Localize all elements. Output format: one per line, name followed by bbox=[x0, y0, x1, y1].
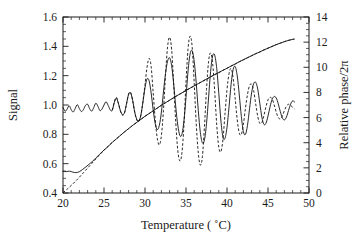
y2-tick-label: 8 bbox=[316, 86, 322, 98]
y-tick-label: 1.2 bbox=[43, 70, 58, 82]
x-axis-title: Temperature ( ˚C) bbox=[141, 218, 231, 232]
series-signal-measured bbox=[63, 50, 295, 143]
y-axis-title: Signal bbox=[6, 89, 20, 121]
y2-tick-label: 14 bbox=[316, 11, 328, 23]
series-phase-theory bbox=[63, 39, 294, 193]
x-tick-label: 25 bbox=[98, 197, 110, 209]
x-tick-label: 40 bbox=[221, 197, 233, 209]
y2-tick-label: 0 bbox=[316, 187, 322, 199]
y-tick-label: 1.0 bbox=[43, 99, 58, 111]
x-tick-label: 50 bbox=[303, 197, 315, 209]
chart-canvas: 202530354045500.40.60.81.01.21.41.602468… bbox=[0, 0, 361, 241]
x-tick-label: 20 bbox=[57, 197, 69, 209]
x-tick-label: 35 bbox=[180, 197, 192, 209]
plot-frame bbox=[63, 17, 309, 193]
y-tick-label: 1.6 bbox=[43, 11, 58, 23]
y2-tick-label: 2 bbox=[316, 162, 322, 174]
y2-tick-label: 4 bbox=[316, 137, 322, 149]
y-tick-label: 0.6 bbox=[43, 158, 58, 170]
y2-axis-title: Relative phase/2π bbox=[337, 60, 351, 150]
axis-ticks bbox=[63, 17, 309, 193]
data-series-layer bbox=[63, 36, 295, 193]
y2-tick-label: 10 bbox=[316, 61, 328, 73]
y-tick-label: 1.4 bbox=[43, 40, 58, 52]
series-signal-theory bbox=[112, 36, 294, 165]
y2-tick-label: 12 bbox=[316, 36, 328, 48]
y-tick-label: 0.8 bbox=[43, 128, 58, 140]
x-tick-label: 45 bbox=[262, 197, 274, 209]
figure-container: 202530354045500.40.60.81.01.21.41.602468… bbox=[0, 0, 361, 241]
x-tick-label: 30 bbox=[139, 197, 151, 209]
y-tick-label: 0.4 bbox=[43, 187, 58, 199]
y2-tick-label: 6 bbox=[316, 112, 322, 124]
